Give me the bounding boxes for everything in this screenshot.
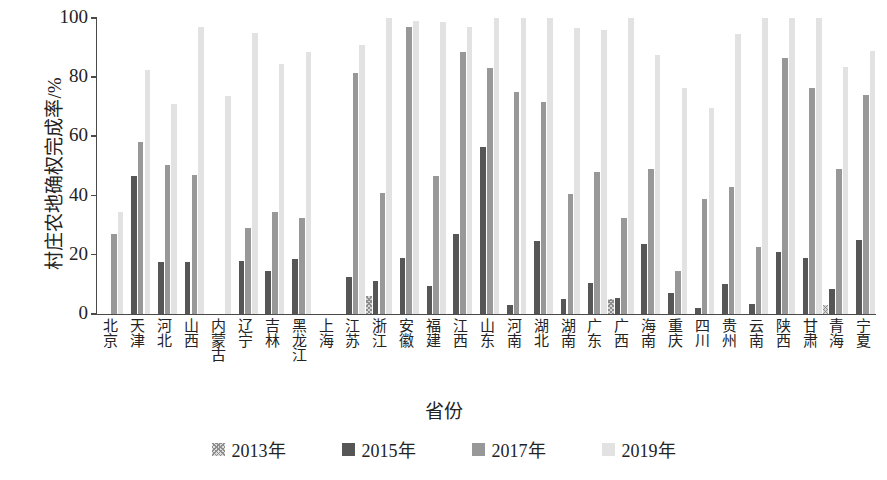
bar-2015-河北 — [158, 262, 164, 314]
x-tick-label-山东: 山东 — [472, 318, 499, 390]
x-tick-label-text: 山西 — [183, 318, 198, 347]
bar-2019-安徽 — [413, 21, 419, 314]
y-tick-label: 0 — [42, 302, 88, 324]
x-tick-label-text: 陕西 — [774, 318, 789, 347]
bar-2017-甘肃 — [809, 88, 815, 314]
bar-group — [634, 18, 661, 314]
legend-item-2019[interactable]: 2019年 — [602, 436, 676, 462]
x-tick-label-江西: 江西 — [446, 318, 473, 390]
bar-2017-江西 — [460, 52, 466, 314]
bar-2019-贵州 — [735, 34, 741, 314]
x-tick-label-text: 浙江 — [371, 318, 386, 347]
bar-group — [446, 18, 473, 314]
bar-2017-山东 — [487, 68, 493, 314]
x-tick-label-浙江: 浙江 — [365, 318, 392, 390]
chart-figure: 村庄农地确权完成率/% 020406080100 北京天津河北山西内蒙古辽宁吉林… — [0, 0, 887, 480]
bar-2013-浙江 — [366, 296, 372, 314]
bar-group — [97, 18, 124, 314]
bar-2015-湖北 — [534, 241, 540, 314]
bar-2019-河北 — [171, 104, 177, 314]
bar-2017-天津 — [138, 142, 144, 314]
bar-2015-河南 — [507, 305, 513, 314]
bar-2017-海南 — [648, 169, 654, 314]
x-tick-label-安徽: 安徽 — [392, 318, 419, 390]
bar-2019-山东 — [494, 18, 500, 314]
bar-2017-辽宁 — [245, 228, 251, 314]
bar-2017-北京 — [111, 234, 117, 314]
bar-2017-云南 — [756, 247, 762, 314]
x-tick-label-text: 安徽 — [398, 318, 413, 347]
bar-2017-山西 — [192, 175, 198, 314]
bar-2019-宁夏 — [870, 51, 876, 314]
legend-label: 2013年 — [232, 436, 286, 462]
x-tick-label-text: 内蒙古 — [210, 318, 225, 362]
x-tick-label-陕西: 陕西 — [768, 318, 795, 390]
bar-2019-甘肃 — [816, 18, 822, 314]
bar-2019-江西 — [467, 27, 473, 314]
x-tick-label-text: 北京 — [102, 318, 117, 347]
x-tick-label-辽宁: 辽宁 — [230, 318, 257, 390]
x-tick-label-text: 青海 — [828, 318, 843, 347]
legend-swatch-icon — [472, 443, 485, 456]
bar-2017-贵州 — [729, 187, 735, 314]
bar-2019-青海 — [843, 67, 849, 314]
x-tick-label-四川: 四川 — [688, 318, 715, 390]
x-tick-label-天津: 天津 — [123, 318, 150, 390]
legend-swatch-icon — [602, 443, 615, 456]
bar-2019-北京 — [118, 212, 124, 314]
x-tick-label-黑龙江: 黑龙江 — [284, 318, 311, 390]
legend-label: 2017年 — [492, 436, 546, 462]
bar-2015-陕西 — [776, 252, 782, 314]
bar-2017-广东 — [594, 172, 600, 314]
bar-2015-吉林 — [265, 271, 271, 314]
x-tick-label-北京: 北京 — [96, 318, 123, 390]
bar-group — [500, 18, 527, 314]
bar-group — [285, 18, 312, 314]
bar-2017-重庆 — [675, 271, 681, 314]
bar-2015-湖南 — [561, 299, 567, 314]
bar-2015-贵州 — [722, 284, 728, 314]
bar-2017-河北 — [165, 165, 171, 314]
bar-2017-青海 — [836, 169, 842, 314]
bar-group — [822, 18, 849, 314]
x-tick-label-福建: 福建 — [419, 318, 446, 390]
bar-2019-福建 — [440, 22, 446, 314]
legend-label: 2015年 — [362, 436, 416, 462]
legend-item-2015[interactable]: 2015年 — [342, 436, 416, 462]
bar-2019-山西 — [198, 27, 204, 314]
x-tick-label-河南: 河南 — [499, 318, 526, 390]
bar-group — [366, 18, 393, 314]
x-tick-label-text: 天津 — [129, 318, 144, 347]
x-tick-label-内蒙古: 内蒙古 — [204, 318, 231, 390]
bar-2019-广东 — [601, 30, 607, 314]
bar-2017-湖北 — [541, 102, 547, 314]
bar-2015-云南 — [749, 304, 755, 314]
bar-2013-青海 — [823, 305, 829, 314]
bar-2015-黑龙江 — [292, 259, 298, 314]
legend-swatch-icon — [212, 443, 225, 456]
legend-item-2017[interactable]: 2017年 — [472, 436, 546, 462]
bar-2015-重庆 — [668, 293, 674, 314]
x-tick-label-广东: 广东 — [580, 318, 607, 390]
y-tick-label: 100 — [42, 6, 88, 28]
x-tick-label-text: 黑龙江 — [290, 318, 305, 362]
bar-group — [339, 18, 366, 314]
bar-2015-山东 — [480, 147, 486, 314]
x-tick-label-text: 河南 — [505, 318, 520, 347]
bar-2017-浙江 — [380, 193, 386, 314]
x-tick-label-text: 广东 — [586, 318, 601, 347]
bar-2015-海南 — [641, 244, 647, 314]
bar-group — [258, 18, 285, 314]
bar-2015-山西 — [185, 262, 191, 314]
bar-2017-安徽 — [406, 27, 412, 314]
bar-2019-吉林 — [279, 64, 285, 314]
bar-group — [204, 18, 231, 314]
bar-2019-广西 — [628, 18, 634, 314]
bar-2017-四川 — [702, 199, 708, 314]
bar-2017-河南 — [514, 92, 520, 314]
bar-2019-云南 — [762, 18, 768, 314]
legend-item-2013[interactable]: 2013年 — [212, 436, 286, 462]
bar-2019-河南 — [521, 18, 527, 314]
bar-2015-四川 — [695, 308, 701, 314]
x-tick-label-text: 河北 — [156, 318, 171, 347]
